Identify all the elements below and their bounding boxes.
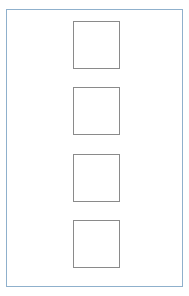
empty-box-2 [73,87,120,135]
empty-box-3 [73,154,120,202]
empty-box-4 [73,220,120,268]
empty-box-1 [73,21,120,69]
diagram-canvas [0,0,189,296]
